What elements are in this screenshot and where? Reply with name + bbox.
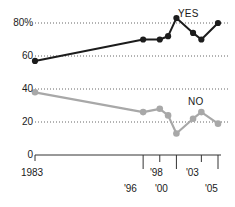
x-tick-label-98: '98 [150,167,163,178]
y-tick-label-20: 20 [0,116,33,127]
data-series [32,15,222,137]
x-tick-label-96: '96 [124,183,137,194]
y-tick-label-80: 80% [0,17,33,28]
series-label-no: NO [188,96,203,107]
chart-container: 80% 60 40 20 0 1983 '96 '98 '00 '03 '05 … [0,0,235,207]
series-label-yes: YES [178,8,199,19]
x-tick-label-05: '05 [205,183,218,194]
x-tick-label-1983: 1983 [21,167,43,178]
y-tick-label-60: 60 [0,50,33,61]
x-tick-label-00: '00 [155,183,168,194]
x-tick-label-03: '03 [186,167,199,178]
y-tick-label-0: 0 [0,149,33,160]
y-tick-label-40: 40 [0,83,33,94]
